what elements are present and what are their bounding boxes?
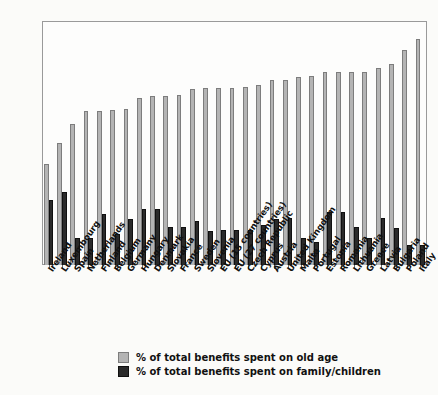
bar-group bbox=[42, 21, 55, 265]
bar-old-age bbox=[402, 50, 407, 265]
y-axis: 0510152025303540455055 bbox=[0, 0, 42, 266]
bar-old-age bbox=[416, 39, 421, 265]
legend-label: % of total benefits spent on old age bbox=[136, 352, 338, 363]
legend: % of total benefits spent on old age% of… bbox=[118, 352, 381, 377]
bar-group bbox=[69, 21, 82, 265]
x-axis-labels: IrelandLuxembourgSpainNetherlandsFinland… bbox=[0, 268, 435, 338]
bar-group bbox=[361, 21, 374, 265]
bar-group bbox=[294, 21, 307, 265]
bars-layer bbox=[42, 21, 427, 265]
bar-family-children bbox=[49, 200, 54, 265]
legend-item: % of total benefits spent on family/chil… bbox=[118, 366, 381, 377]
bar-group bbox=[414, 21, 427, 265]
bar-group bbox=[161, 21, 174, 265]
bar-group bbox=[201, 21, 214, 265]
bar-group bbox=[334, 21, 347, 265]
legend-item: % of total benefits spent on old age bbox=[118, 352, 381, 363]
bar-group bbox=[188, 21, 201, 265]
bar-group bbox=[148, 21, 161, 265]
bar-group bbox=[135, 21, 148, 265]
legend-swatch-old-age bbox=[118, 352, 129, 363]
bar-group bbox=[387, 21, 400, 265]
bar-group bbox=[55, 21, 68, 265]
bar-group bbox=[215, 21, 228, 265]
bar-group bbox=[347, 21, 360, 265]
bar-group bbox=[400, 21, 413, 265]
bar-group bbox=[228, 21, 241, 265]
bar-group bbox=[374, 21, 387, 265]
legend-label: % of total benefits spent on family/chil… bbox=[136, 366, 381, 377]
bar-group bbox=[175, 21, 188, 265]
legend-swatch-family-children bbox=[118, 366, 129, 377]
